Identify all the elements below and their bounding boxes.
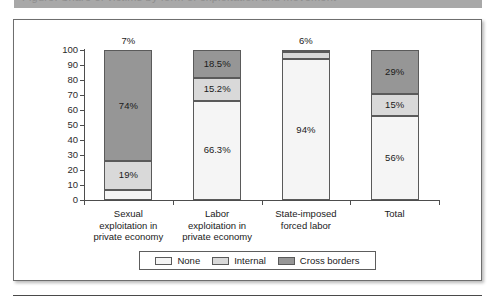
y-axis-tick-mark — [80, 50, 85, 51]
x-axis-tick-mark — [262, 200, 263, 205]
y-axis-tick-mark — [80, 110, 85, 111]
bottom-rule — [13, 295, 482, 296]
x-axis-category-label: Total — [336, 208, 454, 220]
legend-swatch-icon — [212, 257, 229, 265]
y-axis-tick-mark — [80, 65, 85, 66]
y-axis-tick-label: 70 — [50, 90, 78, 100]
y-axis-tick-label: 50 — [50, 120, 78, 130]
x-axis-tick-mark — [350, 200, 351, 205]
category-label-line: Total — [336, 208, 454, 220]
bar-segment-label: 18.5% — [204, 59, 231, 69]
legend-item[interactable]: None — [155, 256, 200, 266]
y-axis-tick-label: 40 — [50, 135, 78, 145]
x-axis-tick-mark — [439, 200, 440, 205]
bar-segment — [282, 52, 330, 60]
bar-segment-label: 15% — [385, 100, 404, 110]
bar-segment-label: 19% — [119, 170, 138, 180]
bar-segment: 19% — [104, 161, 152, 190]
legend-item[interactable]: Cross borders — [278, 256, 360, 266]
legend-label: None — [177, 256, 200, 266]
y-axis-tick-label: 20 — [50, 165, 78, 175]
y-axis-tick-mark — [80, 170, 85, 171]
y-axis-tick-label: 100 — [50, 45, 78, 55]
bar-column: 19%74% — [104, 50, 152, 200]
x-axis-tick-mark — [84, 200, 85, 205]
chart-legend: NoneInternalCross borders — [139, 251, 376, 270]
bar-segment-label: 56% — [385, 153, 404, 163]
y-axis-tick-mark — [80, 80, 85, 81]
y-axis-tick-mark — [80, 125, 85, 126]
bar-segment-label: 15.2% — [204, 84, 231, 94]
plot-area: 1009080706050403020100 7%19%74%66.3%15.2… — [14, 20, 483, 282]
bar-outside-label: 7% — [98, 36, 158, 46]
bar-segment: 15% — [371, 94, 419, 117]
y-axis-tick-label: 0 — [50, 195, 78, 205]
bar-column: 94% — [282, 50, 330, 200]
x-axis-tick-mark — [173, 200, 174, 205]
header-strip-text: Figure: Share of victims by form of expl… — [22, 0, 336, 3]
category-label-line: forced labor — [247, 220, 365, 232]
legend-label: Internal — [234, 256, 266, 266]
y-axis-tick-mark — [80, 185, 85, 186]
bar-segment-label: 29% — [385, 67, 404, 77]
y-axis-tick-mark — [80, 95, 85, 96]
bar-segment-label: 66.3% — [204, 145, 231, 155]
bar-segment — [282, 50, 330, 52]
legend-swatch-icon — [278, 257, 295, 265]
bar-segment: 18.5% — [193, 50, 241, 78]
bar-segment: 15.2% — [193, 78, 241, 101]
header-strip: Figure: Share of victims by form of expl… — [14, 0, 482, 8]
y-axis-tick-mark — [80, 155, 85, 156]
legend-label: Cross borders — [300, 256, 360, 266]
bar-segment: 56% — [371, 116, 419, 200]
bar-outside-label: 6% — [276, 36, 336, 46]
bar-segment: 66.3% — [193, 101, 241, 200]
bar-segment: 94% — [282, 59, 330, 200]
chart-frame: 1009080706050403020100 7%19%74%66.3%15.2… — [13, 19, 482, 281]
bar-column: 56%15%29% — [371, 50, 419, 200]
category-label-line: private economy — [158, 231, 276, 243]
legend-swatch-icon — [155, 257, 172, 265]
bar-segment-label: 74% — [119, 101, 138, 111]
y-axis-tick-label: 80 — [50, 75, 78, 85]
y-axis-tick-mark — [80, 140, 85, 141]
y-axis-tick-label: 60 — [50, 105, 78, 115]
bar-column: 66.3%15.2%18.5% — [193, 50, 241, 200]
bar-segment-label: 94% — [296, 125, 315, 135]
bar-segment: 74% — [104, 50, 152, 161]
y-axis-tick-label: 90 — [50, 60, 78, 70]
legend-item[interactable]: Internal — [212, 256, 266, 266]
y-axis-tick-label: 30 — [50, 150, 78, 160]
bar-segment — [104, 190, 152, 201]
y-axis-tick-label: 10 — [50, 180, 78, 190]
bar-segment: 29% — [371, 50, 419, 94]
